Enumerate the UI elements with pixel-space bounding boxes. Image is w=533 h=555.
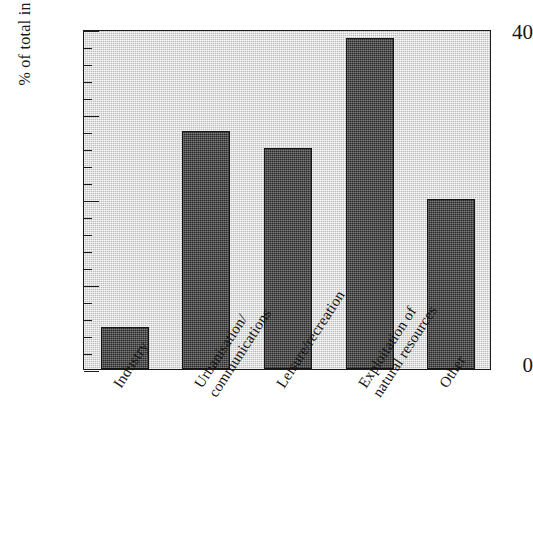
y-major-tick-30 [84,116,99,117]
y-tick-label-40: 40 [487,22,533,43]
y-axis-label: % of total in category [14,0,36,118]
y-minor-tick-8 [84,303,92,304]
y-minor-tick-4 [84,337,92,338]
y-major-tick-20 [84,201,99,202]
y-minor-tick-36 [84,65,92,66]
y-major-tick-10 [84,286,99,287]
bar-3 [346,38,394,370]
y-minor-tick-6 [84,320,92,321]
y-minor-tick-14 [84,252,92,253]
y-major-tick-0 [84,371,99,372]
bar-chart-figure: % of total in category 40 0 IndustryUrba… [0,0,533,555]
y-minor-tick-18 [84,218,92,219]
y-major-tick-40 [84,31,99,32]
y-minor-tick-16 [84,235,92,236]
bar-4 [427,199,475,369]
y-minor-tick-38 [84,48,92,49]
y-minor-tick-24 [84,167,92,168]
y-tick-label-0: 0 [487,355,533,376]
y-minor-tick-32 [84,99,92,100]
y-minor-tick-12 [84,269,92,270]
y-minor-tick-26 [84,150,92,151]
y-minor-tick-34 [84,82,92,83]
y-minor-tick-22 [84,184,92,185]
y-minor-tick-28 [84,133,92,134]
y-minor-tick-2 [84,354,92,355]
